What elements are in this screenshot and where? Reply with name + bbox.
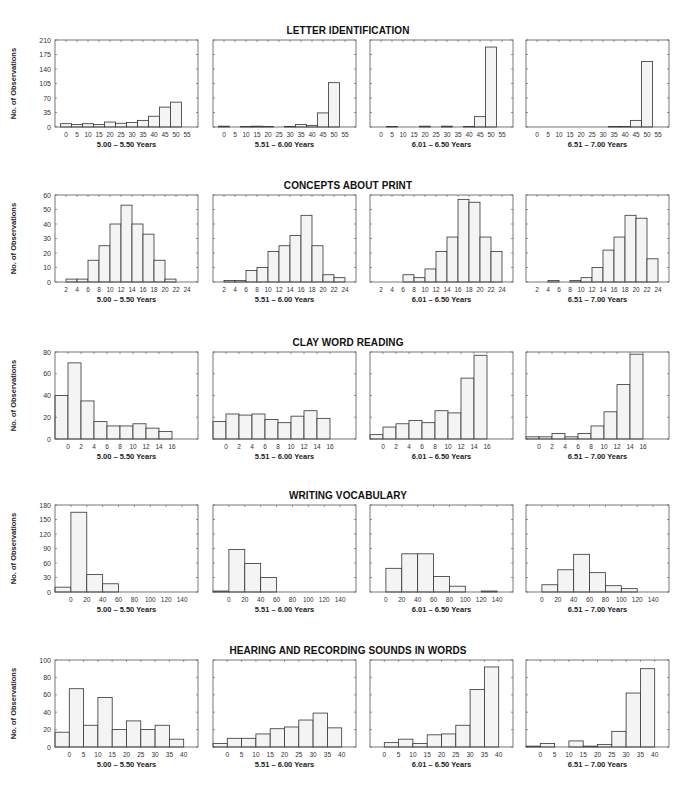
histogram-bar <box>626 693 640 747</box>
histogram-panel: 02040608002468101214165.00 – 5.50 Years <box>27 348 206 469</box>
y-tick-label: 90 <box>43 545 51 552</box>
x-tick-label: 20 <box>577 131 585 138</box>
y-tick-label: 175 <box>39 51 51 58</box>
histogram-panel: 0204060801001201405.51 – 6.00 Years <box>185 501 364 622</box>
histogram-bar <box>474 355 487 439</box>
y-axis-label: No. of Observations <box>9 38 18 128</box>
histogram-bar <box>625 215 636 282</box>
x-tick-label: 5 <box>75 131 79 138</box>
histogram-bar <box>313 713 327 747</box>
x-tick-label: 140 <box>648 596 659 603</box>
histogram-bar <box>256 734 270 747</box>
x-tick-label: 10 <box>242 131 250 138</box>
x-tick-label: 14 <box>313 443 321 450</box>
histogram-panel: 05101520253035405.51 – 6.00 Years <box>185 656 364 777</box>
x-tick-label: 10 <box>555 131 563 138</box>
histogram-panel: 0357010514017521005101520253035404550555… <box>27 36 206 157</box>
histogram-bar <box>590 573 606 592</box>
x-tick-label: 16 <box>454 286 462 293</box>
x-tick-label: 40 <box>465 131 473 138</box>
x-tick-label: 6 <box>263 443 267 450</box>
x-tick-label: 0 <box>538 751 542 758</box>
histogram-bar <box>110 224 121 282</box>
x-tick-label: 10 <box>94 751 102 758</box>
x-tick-label: 20 <box>438 751 446 758</box>
x-tick-label: 2 <box>379 286 383 293</box>
x-tick-label: 12 <box>588 286 596 293</box>
histogram-bar <box>409 421 422 439</box>
y-axis-label: No. of Observations <box>9 503 18 593</box>
histogram-bar <box>66 279 77 282</box>
histogram-bar <box>105 122 116 127</box>
y-tick-label: 20 <box>43 726 51 733</box>
histogram-bar <box>87 575 103 592</box>
x-tick-label: 4 <box>563 443 567 450</box>
histogram-bar <box>242 738 256 747</box>
histogram-bar <box>318 113 329 127</box>
x-tick-label: 4 <box>92 443 96 450</box>
y-tick-label: 60 <box>43 691 51 698</box>
histogram-bar <box>480 237 491 282</box>
x-tick-label: 60 <box>586 596 594 603</box>
x-tick-label: 0 <box>67 751 71 758</box>
x-tick-label: 16 <box>168 443 176 450</box>
x-tick-label: 60 <box>273 596 281 603</box>
histogram-bar <box>470 690 484 747</box>
histogram-bar <box>121 205 132 282</box>
age-group-label: 5.00 – 5.50 Years <box>97 605 157 614</box>
x-tick-label: 14 <box>470 443 478 450</box>
histogram-bar <box>475 117 486 127</box>
histogram-bar <box>552 434 565 439</box>
x-tick-label: 50 <box>330 131 338 138</box>
x-tick-label: 35 <box>166 751 174 758</box>
x-tick-label: 16 <box>483 443 491 450</box>
x-tick-label: 14 <box>286 286 294 293</box>
histogram-panel: 0102030405060246810121416182022245.00 – … <box>27 191 206 312</box>
x-tick-label: 35 <box>481 751 489 758</box>
x-tick-label: 60 <box>115 596 123 603</box>
x-tick-label: 0 <box>222 131 226 138</box>
histogram-bar <box>112 730 126 747</box>
histogram-bar <box>227 738 241 747</box>
histogram-bar <box>160 107 171 127</box>
histogram-bar <box>61 124 72 127</box>
histogram-panel: 02468101214166.51 – 7.00 Years <box>498 348 677 469</box>
histogram-bar <box>630 354 643 439</box>
histogram-bar <box>542 585 558 592</box>
x-tick-label: 10 <box>565 751 573 758</box>
histogram-bar <box>127 721 141 747</box>
y-tick-label: 0 <box>47 279 51 286</box>
histogram-bar <box>94 422 107 439</box>
histogram-panel: 02468101214166.01 – 6.50 Years <box>342 348 521 469</box>
x-tick-label: 45 <box>476 131 484 138</box>
x-tick-label: 16 <box>326 443 334 450</box>
histogram-bar <box>581 278 592 282</box>
histogram-bar <box>141 730 155 747</box>
x-tick-label: 6 <box>401 286 405 293</box>
x-tick-label: 15 <box>267 751 275 758</box>
chart-title: CLAY WORD READING <box>0 337 696 348</box>
histogram-bar <box>154 260 165 282</box>
x-tick-label: 0 <box>224 443 228 450</box>
x-tick-label: 80 <box>289 596 297 603</box>
x-tick-label: 100 <box>460 596 471 603</box>
chart-title: HEARING AND RECORDING SOUNDS IN WORDS <box>0 645 696 656</box>
y-tick-label: 210 <box>39 37 51 44</box>
histogram-bar <box>591 426 604 439</box>
histogram-panel: 02040608010005101520253035405.00 – 5.50 … <box>27 656 206 777</box>
histogram-bar <box>614 237 625 282</box>
histogram-bar <box>278 423 291 439</box>
y-tick-label: 35 <box>43 109 51 116</box>
histogram-bar <box>558 570 574 592</box>
x-tick-label: 60 <box>430 596 438 603</box>
x-tick-label: 40 <box>414 596 422 603</box>
x-tick-label: 5 <box>240 751 244 758</box>
x-tick-label: 15 <box>580 751 588 758</box>
histogram-bar <box>213 422 226 439</box>
age-group-label: 5.51 – 6.00 Years <box>255 760 315 769</box>
histogram-bar <box>77 279 88 282</box>
histogram-bar <box>133 424 146 439</box>
histogram-bar <box>418 554 434 592</box>
x-tick-label: 25 <box>608 751 616 758</box>
x-tick-label: 12 <box>457 443 465 450</box>
